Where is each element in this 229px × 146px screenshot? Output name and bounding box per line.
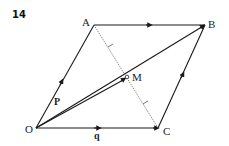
label-M: M <box>132 71 142 83</box>
label-C: C <box>163 125 170 137</box>
label-O: O <box>25 123 33 135</box>
label-A: A <box>82 16 90 28</box>
parallelogram-diagram: 14 A B M O C P q <box>0 0 229 146</box>
figure-number: 14 <box>12 9 26 20</box>
label-vector-p: P <box>54 96 60 107</box>
label-vector-q: q <box>94 130 100 141</box>
point-M <box>125 75 129 79</box>
label-B: B <box>208 18 215 30</box>
edge-CB <box>158 25 205 128</box>
diagonal-OB <box>36 25 205 128</box>
